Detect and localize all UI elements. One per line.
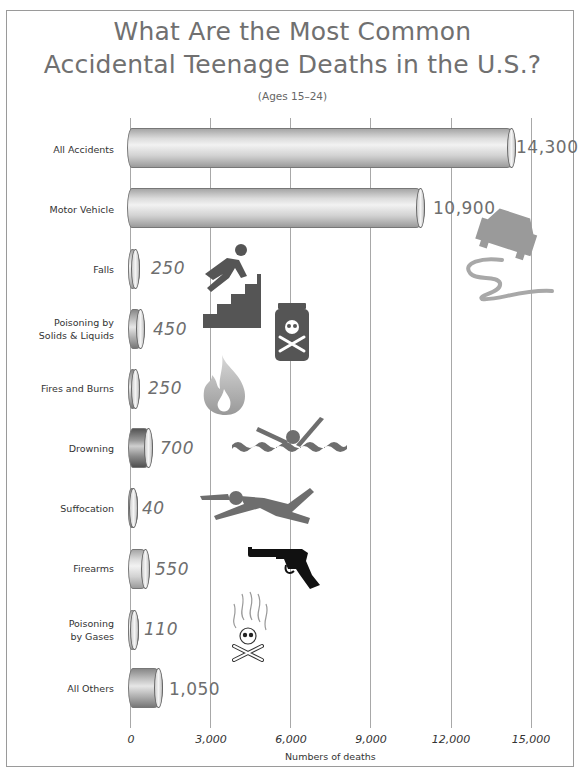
bar-all-accidents [127,128,516,168]
gas-skull-icon [228,590,278,662]
row-label-firearms: Firearms [73,562,114,575]
x-tick-12000: 12,000 [432,733,471,746]
drowning-swimmer-icon [232,415,347,455]
bar-cap [154,668,163,708]
bar-cap [129,488,138,528]
value-all-others: 1,050 [169,679,220,699]
x-tick-0: 0 [128,733,135,746]
row-label-fires: Fires and Burns [41,382,114,395]
label-line: by Gases [69,630,114,643]
x-axis-label: Numbers of deaths [285,751,376,762]
value-suffocation: 40 [142,498,165,518]
value-falls: 250 [151,258,185,278]
row-label-all-accidents: All Accidents [53,143,114,156]
skidding-car-icon [462,205,557,305]
x-tick-6000: 6,000 [275,733,307,746]
x-tick-3000: 3,000 [195,733,227,746]
chart-title-line2: Accidental Teenage Deaths in the U.S.? [0,50,585,79]
bar-drowning [128,428,153,468]
value-drowning: 700 [160,438,194,458]
row-label-all-others: All Others [67,682,114,695]
bar-poisoning-solids [128,309,145,349]
row-label-poisoning-solids: Poisoning by Solids & Liquids [39,316,114,342]
value-poisoning-solids: 450 [153,319,187,339]
bar-cap [144,428,153,468]
row-label-falls: Falls [93,263,114,276]
row-label-poisoning-gases: Poisoning by Gases [69,617,114,643]
value-firearms: 550 [155,559,189,579]
chart-subtitle: (Ages 15–24) [0,90,585,102]
falling-person-stairs-icon [193,240,263,328]
bar-cap [136,309,145,349]
suffocation-figure-icon [200,488,318,528]
bar-cap [130,610,139,650]
bar-suffocation [128,488,138,528]
label-line: Solids & Liquids [39,329,114,342]
label-line: Poisoning by [39,316,114,329]
row-label-drowning: Drowning [69,442,114,455]
label-line: Poisoning [69,617,114,630]
x-tick-9000: 9,000 [355,733,387,746]
value-all-accidents: 14,300 [516,137,578,157]
row-label-suffocation: Suffocation [60,502,114,515]
chart-title-line1: What Are the Most Common [0,17,585,46]
flame-icon [200,355,250,415]
value-poisoning-gases: 110 [144,619,178,639]
x-tick-15000: 15,000 [512,733,551,746]
bar-all-others [128,668,163,708]
value-fires: 250 [148,378,182,398]
bar-poisoning-gases [128,610,139,650]
row-label-motor-vehicle: Motor Vehicle [50,203,114,216]
revolver-icon [248,545,322,589]
bar-cap [507,128,516,168]
bar-cap [131,249,140,289]
bar-cap [141,549,150,589]
bar-fires [128,369,140,409]
poison-jar-icon [274,303,310,361]
bar-cap [131,369,140,409]
bar-cap [416,188,425,228]
bar-falls [128,249,140,289]
bar-motor-vehicle [127,188,425,228]
bar-firearms [128,549,150,589]
